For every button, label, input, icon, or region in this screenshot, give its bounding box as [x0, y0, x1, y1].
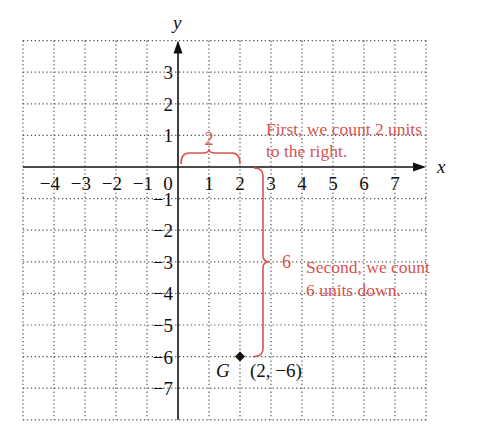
y-tick-label: 2 [164, 94, 174, 115]
y-axis-arrow-icon [174, 41, 183, 54]
point-coords-label: (2, −6) [250, 360, 302, 382]
x-tick-label: 6 [359, 173, 369, 194]
brace-h-value: 2 [205, 129, 214, 149]
x-axis-label: x [436, 156, 446, 177]
y-tick-label: 1 [164, 125, 174, 146]
x-tick-label: 4 [297, 173, 307, 194]
y-tick-label: −3 [153, 252, 173, 273]
note-second-line1: Second, we count [306, 257, 430, 277]
x-axis-arrow-icon [413, 163, 426, 172]
y-tick-label: −1 [153, 189, 173, 210]
y-axis-label: y [171, 12, 182, 33]
x-tick-label: 2 [235, 173, 245, 194]
coordinate-plane: xy −4−3−2−101234567321−1−2−3−4−5−6−7 2Fi… [0, 0, 488, 440]
note-second-line2: 6 units down. [306, 280, 401, 300]
y-tick-label: −6 [153, 347, 173, 368]
x-tick-label: 1 [204, 173, 214, 194]
x-tick-label: −3 [71, 173, 91, 194]
x-tick-label: 5 [328, 173, 338, 194]
point-marker-icon [235, 352, 245, 362]
horizontal-brace-icon [181, 149, 240, 164]
x-tick-label: −4 [40, 173, 61, 194]
brace-v-value: 6 [282, 252, 291, 272]
note-first-line1: First, we count 2 units [266, 119, 422, 139]
note-first-line2: to the right. [266, 141, 347, 161]
y-tick-label: 3 [164, 62, 174, 83]
x-tick-label: 7 [390, 173, 400, 194]
axes: xy [23, 12, 446, 420]
annotations: 2First, we count 2 unitsto the right.6Se… [181, 119, 430, 357]
point-name-label: G [216, 360, 230, 381]
x-tick-label: −2 [102, 173, 122, 194]
y-tick-label: −5 [153, 315, 173, 336]
x-tick-label: −1 [133, 173, 153, 194]
y-tick-label: −4 [153, 283, 174, 304]
x-tick-label: 3 [266, 173, 276, 194]
y-tick-label: −7 [153, 378, 173, 399]
y-tick-label: −2 [153, 220, 173, 241]
